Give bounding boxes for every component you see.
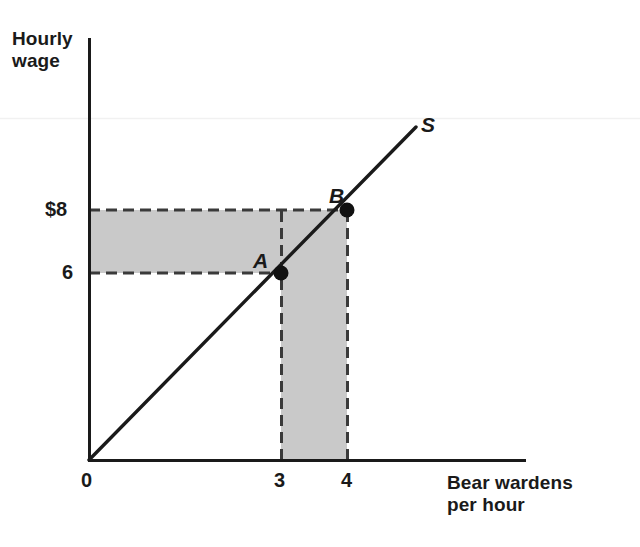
x-tick-label-3: 3 bbox=[274, 469, 285, 492]
curve-label-s: S bbox=[421, 113, 435, 137]
y-tick-label-6: 6 bbox=[62, 261, 73, 284]
supply-curve-figure: Hourlywage Bear wardensper hour 0 3 4 $8… bbox=[0, 0, 640, 547]
y-axis-title-line1: Hourly bbox=[12, 28, 73, 49]
supply-curve-line bbox=[89, 127, 416, 460]
x-axis-title-line1: Bear wardens bbox=[447, 472, 573, 493]
x-axis-title-line2: per hour bbox=[447, 494, 525, 515]
y-axis-title-line2: wage bbox=[12, 50, 60, 71]
x-tick-label-origin: 0 bbox=[81, 469, 92, 492]
shaded-region-vertical-additional-hires-band bbox=[281, 210, 347, 460]
y-axis-title: Hourlywage bbox=[12, 28, 73, 72]
point-label-a: A bbox=[253, 249, 268, 273]
chart-canvas bbox=[0, 0, 640, 547]
y-tick-label-8: $8 bbox=[45, 198, 67, 221]
x-axis-title: Bear wardensper hour bbox=[447, 472, 573, 516]
point-label-b: B bbox=[329, 184, 344, 208]
x-tick-label-4: 4 bbox=[341, 469, 352, 492]
data-point-a bbox=[274, 266, 289, 281]
